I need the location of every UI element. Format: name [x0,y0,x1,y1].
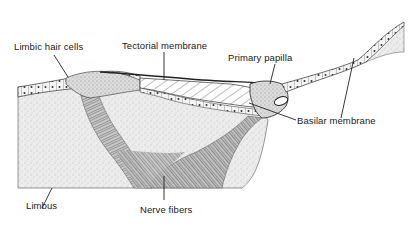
basilar-tissue-wedge [366,26,404,62]
label-nerve-fibers: Nerve fibers [140,205,192,215]
papilla-cross-section-diagram [0,0,415,227]
label-basilar-membrane: Basilar membrane [297,116,376,126]
label-tectorial-membrane: Tectorial membrane [122,41,207,51]
label-limbic-hair-cells: Limbic hair cells [14,42,83,52]
basilar-epithelium [282,22,404,92]
leader-limbic-hair-cells [54,55,68,77]
label-primary-papilla: Primary papilla [228,53,292,63]
label-limbus: Limbus [26,201,57,211]
